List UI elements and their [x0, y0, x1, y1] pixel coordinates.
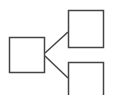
- child-bottom-node-box: [69, 63, 104, 96]
- root-node-box: [10, 38, 45, 73]
- child-top-node-box: [69, 11, 104, 48]
- connector-root-to-bottom: [45, 56, 68, 78]
- hierarchy-diagram: [0, 0, 114, 95]
- connector-root-to-top: [45, 32, 68, 53]
